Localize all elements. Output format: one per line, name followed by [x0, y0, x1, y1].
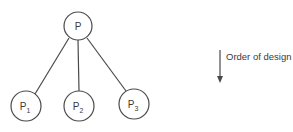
hierarchy-diagram: P P1 P2 P3: [0, 0, 293, 132]
order-of-design-label: Order of design: [226, 51, 291, 62]
node-root: P: [64, 12, 92, 40]
node-p3: P3: [119, 89, 149, 119]
edge-root-p1: [35, 38, 69, 94]
order-arrow-icon: [217, 50, 223, 83]
node-root-label: P: [75, 21, 82, 32]
node-p1: P1: [11, 91, 41, 121]
edge-root-p3: [87, 38, 126, 91]
node-p2: P2: [64, 91, 94, 121]
edge-root-p2: [78, 40, 79, 91]
